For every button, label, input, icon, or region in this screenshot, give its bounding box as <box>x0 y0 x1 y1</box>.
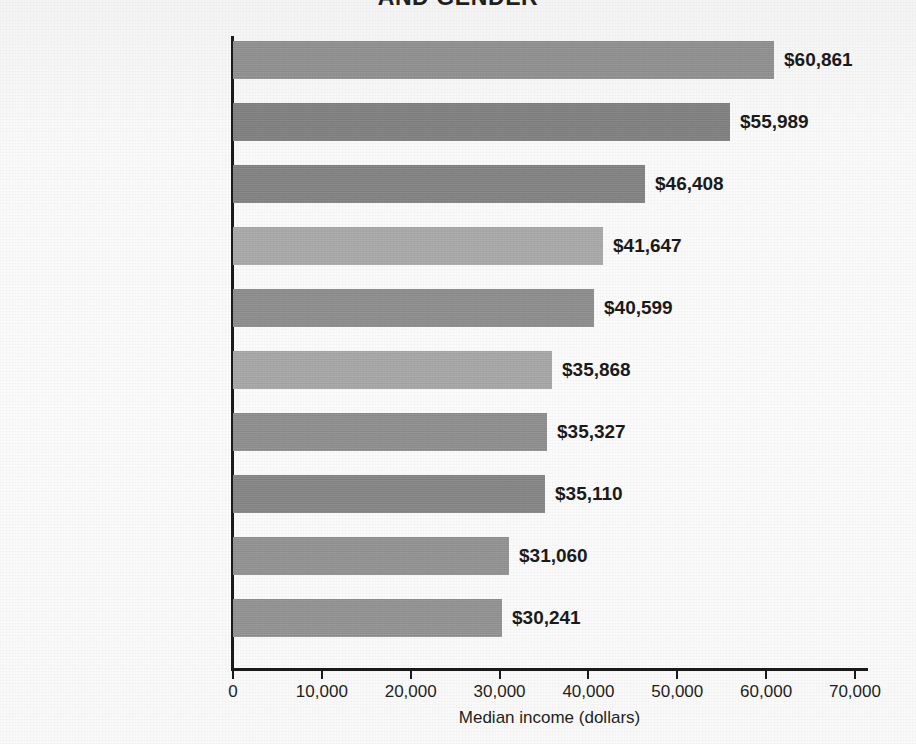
x-axis-tick-mark <box>765 668 767 679</box>
bar <box>233 289 594 327</box>
x-axis-tick-mark <box>499 668 501 679</box>
bar-texture <box>233 41 774 79</box>
x-axis-tick-label: 0 <box>228 682 237 702</box>
bar-chart-plot-area: Asian men$60,861White men$55,989Asian wo… <box>0 0 916 744</box>
bar-texture <box>233 103 730 141</box>
bar <box>233 475 545 513</box>
bar-texture <box>233 413 547 451</box>
scanned-page: AND GENDER Asian men$60,861White men$55,… <box>0 0 916 744</box>
bar-texture <box>233 227 603 265</box>
x-axis-tick-label: 20,000 <box>385 682 437 702</box>
bar-texture <box>233 289 594 327</box>
bar-value-label: $40,599 <box>604 297 673 319</box>
bar <box>233 103 730 141</box>
x-axis-tick-label: 10,000 <box>296 682 348 702</box>
bar-value-label: $46,408 <box>655 173 724 195</box>
bar-value-label: $35,868 <box>562 359 631 381</box>
bar-texture <box>233 351 552 389</box>
bar <box>233 599 502 637</box>
bar <box>233 41 774 79</box>
x-axis-tick-mark <box>321 668 323 679</box>
x-axis-tick-label: 60,000 <box>740 682 792 702</box>
bar-value-label: $41,647 <box>613 235 682 257</box>
x-axis-title: Median income (dollars) <box>231 708 868 728</box>
bar-value-label: $35,110 <box>555 483 623 505</box>
bar <box>233 227 603 265</box>
bar-value-label: $55,989 <box>740 111 809 133</box>
bar <box>233 351 552 389</box>
x-axis-tick-mark <box>676 668 678 679</box>
bar-texture <box>233 475 545 513</box>
x-axis-line <box>231 668 868 671</box>
x-axis-tick-mark <box>410 668 412 679</box>
bar-value-label: $31,060 <box>519 545 588 567</box>
x-axis-tick-label: 50,000 <box>651 682 703 702</box>
bar-texture <box>233 165 645 203</box>
x-axis-tick-label: 70,000 <box>829 682 881 702</box>
bar-value-label: $30,241 <box>512 607 581 629</box>
bar <box>233 413 547 451</box>
bar-texture <box>233 537 509 575</box>
bar-value-label: $60,861 <box>784 49 853 71</box>
x-axis-tick-mark <box>232 668 234 679</box>
bar <box>233 165 645 203</box>
x-axis-tick-mark <box>854 668 856 679</box>
bar-value-label: $35,327 <box>557 421 626 443</box>
x-axis-tick-label: 40,000 <box>562 682 614 702</box>
bar <box>233 537 509 575</box>
bar-texture <box>233 599 502 637</box>
x-axis-tick-mark <box>587 668 589 679</box>
x-axis-tick-label: 30,000 <box>474 682 526 702</box>
